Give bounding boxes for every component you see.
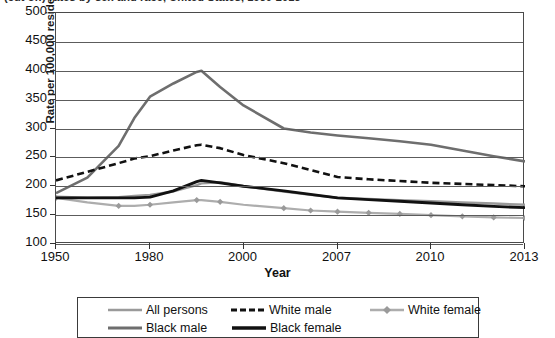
x-tick-label-2013: 2013 bbox=[510, 249, 539, 264]
marker-white-female bbox=[459, 213, 465, 219]
gridline-150 bbox=[56, 215, 523, 216]
legend-swatch-white-male bbox=[229, 303, 267, 317]
gridline-200 bbox=[56, 186, 523, 187]
marker-white-female bbox=[334, 209, 340, 215]
y-tick-label-200: 200 bbox=[0, 176, 47, 191]
marker-white-female bbox=[308, 207, 314, 213]
marker-white-female bbox=[281, 205, 287, 211]
legend-label-all-persons: All persons bbox=[146, 303, 208, 317]
x-tick-label-1980: 1980 bbox=[135, 249, 164, 264]
legend-swatch-black-male bbox=[106, 321, 144, 335]
x-tick-label-2000: 2000 bbox=[228, 249, 257, 264]
y-tick-label-300: 300 bbox=[0, 119, 47, 134]
y-tick-label-500: 500 bbox=[0, 3, 47, 18]
x-tick-label-2007: 2007 bbox=[322, 249, 351, 264]
marker-white-female bbox=[147, 202, 153, 208]
line-white-male bbox=[56, 145, 525, 187]
x-axis-title: Year bbox=[0, 266, 555, 280]
marker-white-female bbox=[116, 203, 122, 209]
legend-item-black-female: Black female bbox=[230, 319, 370, 337]
legend-label-black-female: Black female bbox=[270, 321, 342, 335]
chart-legend: All persons White male White female bbox=[77, 297, 479, 338]
y-tick-label-250: 250 bbox=[0, 147, 47, 162]
gridline-250 bbox=[56, 157, 523, 158]
legend-swatch-black-female bbox=[230, 321, 268, 335]
legend-item-white-male: White male bbox=[229, 301, 368, 319]
chart-title-clipped: (cut off) rates by sex and race, United … bbox=[0, 0, 555, 3]
y-tick-label-350: 350 bbox=[0, 90, 47, 105]
line-black-male bbox=[56, 71, 525, 193]
x-tick-label-1950: 1950 bbox=[41, 249, 70, 264]
gridline-350 bbox=[56, 100, 523, 101]
chart-figure: (cut off) rates by sex and race, United … bbox=[0, 0, 555, 338]
legend-swatch-all-persons bbox=[106, 303, 144, 317]
legend-row-1: All persons White male White female bbox=[78, 301, 478, 319]
marker-white-female bbox=[397, 211, 403, 217]
y-tick-label-450: 450 bbox=[0, 32, 47, 47]
legend-item-white-female: White female bbox=[368, 301, 478, 319]
legend-item-black-male: Black male bbox=[78, 319, 230, 337]
legend-label-white-female: White female bbox=[408, 303, 481, 317]
gridline-450 bbox=[56, 42, 523, 43]
marker-white-female bbox=[217, 199, 223, 205]
legend-row-2: Black male Black female bbox=[78, 319, 478, 337]
marker-white-female bbox=[194, 197, 200, 203]
legend-label-black-male: Black male bbox=[146, 321, 207, 335]
gridline-400 bbox=[56, 71, 523, 72]
chart-title-text: (cut off) rates by sex and race, United … bbox=[0, 0, 555, 3]
legend-swatch-white-female bbox=[368, 303, 406, 317]
gridline-300 bbox=[56, 129, 523, 130]
x-tick-label-2010: 2010 bbox=[416, 249, 445, 264]
legend-label-white-male: White male bbox=[269, 303, 332, 317]
legend-item-all-persons: All persons bbox=[78, 301, 229, 319]
y-tick-label-150: 150 bbox=[0, 205, 47, 220]
plot-area bbox=[55, 12, 524, 243]
y-tick-label-400: 400 bbox=[0, 61, 47, 76]
gridline-100 bbox=[56, 244, 523, 245]
y-tick-label-100: 100 bbox=[0, 234, 47, 249]
